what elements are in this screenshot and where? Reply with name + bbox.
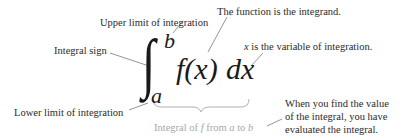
function-fx: f(x) xyxy=(176,54,218,84)
integral-of-to: to xyxy=(235,122,248,133)
upper-limit-b: b xyxy=(164,30,175,52)
evaluated-leader xyxy=(267,119,282,126)
integral-sign-label: Integral sign xyxy=(54,46,107,57)
integrand-label: The function is the integrand. xyxy=(217,7,341,18)
variable-label: x is the variable of integration. xyxy=(244,42,372,53)
underbrace xyxy=(153,99,249,112)
lower-limit-label: Lower limit of integration xyxy=(14,108,123,119)
evaluated-line-1: When you find the value xyxy=(285,97,389,110)
variable-label-text: is the variable of integration. xyxy=(249,41,373,52)
integral-of-b: b xyxy=(248,122,253,133)
differential-dx: dx xyxy=(226,54,254,84)
integral-of-prefix: Integral of xyxy=(154,122,201,133)
lower-limit-a: a xyxy=(151,85,162,107)
integral-of-from: from xyxy=(204,122,230,133)
evaluated-note: When you find the value of the integral,… xyxy=(285,97,389,136)
lower-limit-leader xyxy=(129,103,148,110)
evaluated-line-3: evaluated the integral. xyxy=(285,123,389,136)
integral-of-label: Integral of f from a to b xyxy=(154,123,253,134)
evaluated-line-2: of the integral, you have xyxy=(285,110,389,123)
integrand-leader xyxy=(208,17,227,52)
